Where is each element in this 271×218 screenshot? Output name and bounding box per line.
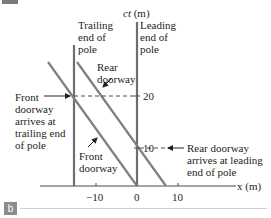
- front-doorway-label: Front doorway: [79, 150, 118, 174]
- panel-label-badge: b: [4, 202, 17, 215]
- x-axis-label: x (m): [237, 180, 261, 192]
- rear-doorway-label: Rear doorway: [97, 61, 136, 85]
- front-arrives-label: Front doorway arrives at trailing end of…: [15, 91, 65, 151]
- x-tick-label-10: 10: [172, 191, 183, 203]
- y-tick-label-20: 20: [143, 90, 154, 102]
- x-tick-label-0: 0: [134, 191, 140, 203]
- ct-axis-label: ct (m): [123, 7, 150, 19]
- trailing-end-label: Trailing end of pole: [78, 19, 113, 55]
- leading-end-label: Leading end of pole: [140, 19, 176, 55]
- arrow-front-doorway: [88, 138, 97, 147]
- caption-divider: [20, 208, 267, 209]
- x-tick-label-minus10: −10: [86, 191, 103, 203]
- y-tick-label-10: 10: [143, 142, 154, 154]
- rear-arrives-label: Rear doorway arrives at leading end of p…: [187, 142, 263, 178]
